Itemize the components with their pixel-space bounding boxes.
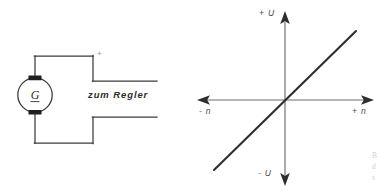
caption-fragment-line-1: B	[372, 150, 392, 161]
caption-fragment-line-3: s	[372, 172, 392, 183]
commutator-brush-bottom	[29, 110, 42, 115]
caption-fragment-line-2: d	[372, 161, 392, 172]
figure-canvas: G zum Regler +	[0, 0, 392, 194]
generator-symbol-letter: G	[31, 88, 40, 102]
axis-label-minus-n: - n	[199, 106, 211, 116]
voltage-speed-characteristic: + U - U - n + n B d s	[196, 0, 392, 194]
axis-label-minus-u: - U	[258, 168, 272, 178]
zum-regler-label: zum Regler	[88, 90, 148, 100]
generator-circuit-diagram: G zum Regler +	[0, 0, 196, 194]
axis-label-plus-u: + U	[259, 8, 275, 18]
axis-label-plus-n: + n	[352, 106, 366, 116]
graph-svg	[196, 0, 392, 194]
commutator-brush-top	[29, 76, 42, 81]
plus-terminal-label: +	[97, 50, 102, 58]
caption-fragments: B d s	[372, 150, 392, 194]
